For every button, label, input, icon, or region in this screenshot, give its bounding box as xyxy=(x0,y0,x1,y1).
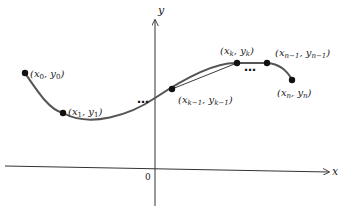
x-axis-label: x xyxy=(332,165,339,178)
ellipsis-right: … xyxy=(244,60,256,74)
ellipsis-left: … xyxy=(137,92,149,106)
x-axis xyxy=(5,166,329,172)
y-axis-label: y xyxy=(157,4,165,17)
origin-label: 0 xyxy=(145,172,151,182)
point-pn1 xyxy=(264,60,270,66)
label-p0: (x0, y0) xyxy=(30,68,65,81)
point-pk1 xyxy=(169,86,175,92)
point-p1 xyxy=(60,110,66,116)
chord-segment xyxy=(172,63,237,89)
point-p0 xyxy=(22,70,28,76)
point-pn xyxy=(289,77,295,83)
label-pn1: (xn−1, yn−1) xyxy=(275,47,330,60)
point-pk xyxy=(234,60,240,66)
label-pk1: (xk−1, yk−1) xyxy=(178,94,233,107)
label-pn: (xn, yn) xyxy=(277,87,312,100)
label-pk: (xk, yk) xyxy=(220,45,254,58)
curve-diagram: x y 0 … … (x0, y0) (x1, y1) (xk−1, yk−1)… xyxy=(0,0,345,218)
